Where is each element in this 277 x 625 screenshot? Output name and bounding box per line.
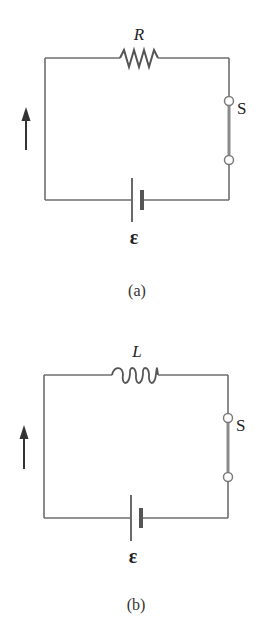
resistor-icon (120, 50, 158, 67)
current-arrow-icon (20, 425, 29, 439)
current-arrow-icon (22, 107, 31, 121)
switch-label: S (237, 99, 246, 118)
switch-label: S (236, 416, 245, 435)
panel-a: R S ε (a) (22, 25, 247, 300)
emf-label: ε (129, 545, 138, 567)
switch-terminal-bottom (224, 473, 233, 482)
resistor-label: R (133, 25, 145, 44)
switch-terminal-top (225, 97, 234, 106)
inductor-label: L (131, 342, 141, 361)
emf-label: ε (130, 226, 139, 248)
switch-terminal-bottom (225, 156, 234, 165)
panel-caption: (b) (127, 596, 146, 614)
inductor-icon (112, 368, 158, 383)
panel-b: L S ε (b) (20, 342, 246, 614)
switch-terminal-top (224, 414, 233, 423)
circuit-figure: R S ε (a) L S ε (b) (0, 0, 277, 625)
panel-caption: (a) (128, 282, 146, 300)
